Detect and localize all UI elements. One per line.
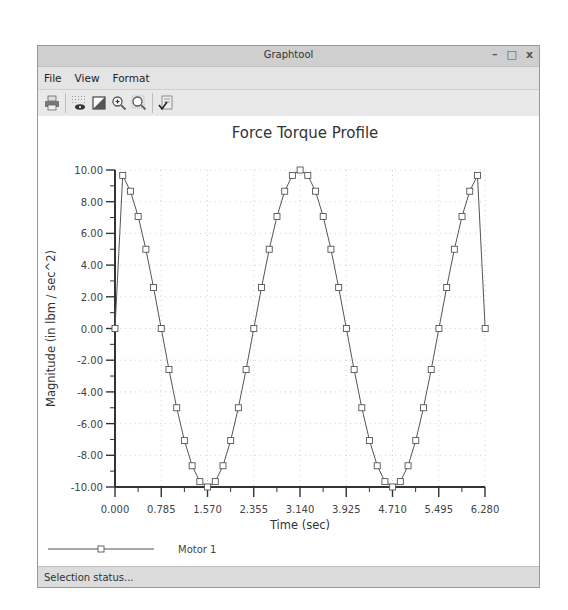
minimize-button[interactable]: –: [492, 49, 498, 61]
x-tick-label: 0.000: [101, 504, 130, 515]
x-tick-label: 6.280: [471, 504, 500, 515]
data-point-marker[interactable]: [228, 438, 234, 444]
x-tick-label: 1.570: [193, 504, 222, 515]
window-title: Graphtool: [38, 49, 539, 60]
print-button[interactable]: [43, 94, 61, 112]
chart-area[interactable]: Force Torque Profile10.008.006.004.002.0…: [38, 116, 539, 566]
data-point-marker[interactable]: [374, 463, 380, 469]
y-tick-label: 6.00: [81, 228, 103, 239]
data-point-marker[interactable]: [251, 326, 257, 332]
data-point-marker[interactable]: [420, 405, 426, 411]
data-point-marker[interactable]: [174, 405, 180, 411]
data-point-marker[interactable]: [212, 479, 218, 485]
data-point-marker[interactable]: [181, 438, 187, 444]
zoom-fit-icon: [131, 95, 147, 111]
data-point-marker[interactable]: [343, 326, 349, 332]
data-point-marker[interactable]: [205, 484, 211, 490]
data-point-marker[interactable]: [220, 463, 226, 469]
menu-view[interactable]: View: [75, 72, 100, 84]
legend-marker: [98, 546, 104, 552]
zoom-in-button[interactable]: [110, 94, 128, 112]
zoom-in-icon: [111, 95, 127, 111]
line-chart[interactable]: Force Torque Profile10.008.006.004.002.0…: [38, 116, 539, 566]
y-tick-label: -6.00: [77, 419, 103, 430]
data-point-marker[interactable]: [189, 463, 195, 469]
y-tick-label: 10.00: [74, 165, 103, 176]
menu-format[interactable]: Format: [113, 72, 150, 84]
y-axis-label: Magnitude (in lbm / sec^2): [44, 250, 58, 407]
data-point-marker[interactable]: [320, 213, 326, 219]
y-tick-label: 0.00: [81, 324, 103, 335]
data-point-marker[interactable]: [120, 172, 126, 178]
x-tick-label: 2.355: [239, 504, 268, 515]
toolbar-separator: [152, 93, 153, 113]
y-tick-label: 8.00: [81, 197, 103, 208]
data-point-marker[interactable]: [397, 479, 403, 485]
menu-bar: File View Format: [38, 67, 539, 89]
data-point-marker[interactable]: [166, 367, 172, 373]
y-tick-label: 2.00: [81, 292, 103, 303]
status-text: Selection status...: [44, 572, 134, 583]
data-point-marker[interactable]: [289, 172, 295, 178]
legend-label-motor-1[interactable]: Motor 1: [178, 544, 216, 555]
data-point-marker[interactable]: [112, 326, 118, 332]
background-fill-button[interactable]: [90, 94, 108, 112]
data-point-marker[interactable]: [367, 438, 373, 444]
data-point-marker[interactable]: [474, 172, 480, 178]
properties-button[interactable]: [157, 94, 175, 112]
y-tick-label: -8.00: [77, 450, 103, 461]
data-point-marker[interactable]: [351, 367, 357, 373]
data-point-marker[interactable]: [328, 246, 334, 252]
toolbar: [38, 89, 539, 117]
data-point-marker[interactable]: [359, 405, 365, 411]
data-point-marker[interactable]: [312, 188, 318, 194]
data-point-marker[interactable]: [482, 326, 488, 332]
menu-file[interactable]: File: [44, 72, 62, 84]
data-point-marker[interactable]: [467, 188, 473, 194]
data-point-marker[interactable]: [336, 284, 342, 290]
data-point-marker[interactable]: [305, 172, 311, 178]
check-document-icon: [158, 95, 174, 111]
y-tick-label: -4.00: [77, 387, 103, 398]
grid-toggle-button[interactable]: [70, 94, 88, 112]
x-tick-label: 4.710: [378, 504, 407, 515]
data-point-marker[interactable]: [135, 213, 141, 219]
x-axis-label: Time (sec): [269, 518, 330, 532]
data-point-marker[interactable]: [459, 213, 465, 219]
zoom-fit-button[interactable]: [130, 94, 148, 112]
graphtool-window: Graphtool – □ x File View Format: [37, 45, 540, 588]
data-point-marker[interactable]: [382, 479, 388, 485]
data-point-marker[interactable]: [390, 484, 396, 490]
data-point-marker[interactable]: [127, 188, 133, 194]
data-point-marker[interactable]: [451, 246, 457, 252]
y-tick-label: 4.00: [81, 260, 103, 271]
x-tick-label: 3.925: [332, 504, 361, 515]
data-point-marker[interactable]: [297, 167, 303, 173]
data-point-marker[interactable]: [405, 463, 411, 469]
printer-icon: [44, 95, 60, 111]
data-point-marker[interactable]: [259, 284, 265, 290]
data-point-marker[interactable]: [436, 326, 442, 332]
close-button[interactable]: x: [526, 49, 533, 61]
data-point-marker[interactable]: [266, 246, 272, 252]
fill-square-icon: [91, 95, 107, 111]
x-tick-label: 0.785: [147, 504, 176, 515]
data-point-marker[interactable]: [243, 367, 249, 373]
data-point-marker[interactable]: [158, 326, 164, 332]
chart-title: Force Torque Profile: [232, 124, 379, 142]
data-point-marker[interactable]: [428, 367, 434, 373]
x-tick-label: 3.140: [286, 504, 315, 515]
data-point-marker[interactable]: [274, 213, 280, 219]
data-point-marker[interactable]: [151, 284, 157, 290]
data-point-marker[interactable]: [282, 188, 288, 194]
data-point-marker[interactable]: [444, 284, 450, 290]
data-point-marker[interactable]: [235, 405, 241, 411]
maximize-button[interactable]: □: [506, 49, 516, 61]
data-point-marker[interactable]: [197, 479, 203, 485]
title-bar[interactable]: Graphtool – □ x: [38, 46, 539, 67]
toolbar-separator: [65, 93, 66, 113]
grid-eye-icon: [71, 95, 87, 111]
data-point-marker[interactable]: [143, 246, 149, 252]
x-tick-label: 5.495: [424, 504, 453, 515]
data-point-marker[interactable]: [413, 438, 419, 444]
